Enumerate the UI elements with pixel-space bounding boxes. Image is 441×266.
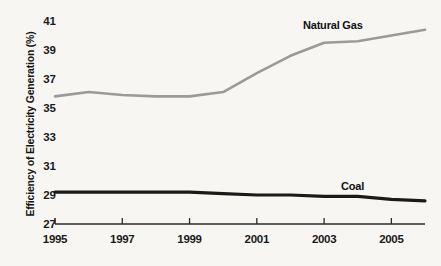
series-label-natural-gas: Natural Gas (303, 19, 363, 31)
x-axis-tick-label: 2001 (227, 233, 287, 245)
series-line-coal (55, 192, 425, 201)
x-axis-tick-label: 1999 (160, 233, 220, 245)
x-axis-tick-label: 2005 (361, 233, 421, 245)
plot-area (0, 0, 441, 266)
x-axis-tick-label: 2003 (294, 233, 354, 245)
x-axis-tick-labels: 199519971999200120032005 (0, 233, 441, 253)
x-axis-tick-label: 1995 (25, 233, 85, 245)
chart-container: Efficiency of Electricity Generation (%)… (0, 0, 441, 266)
series-line-natural-gas (55, 30, 425, 97)
series-label-coal: Coal (341, 180, 364, 192)
x-axis-tick-label: 1997 (92, 233, 152, 245)
